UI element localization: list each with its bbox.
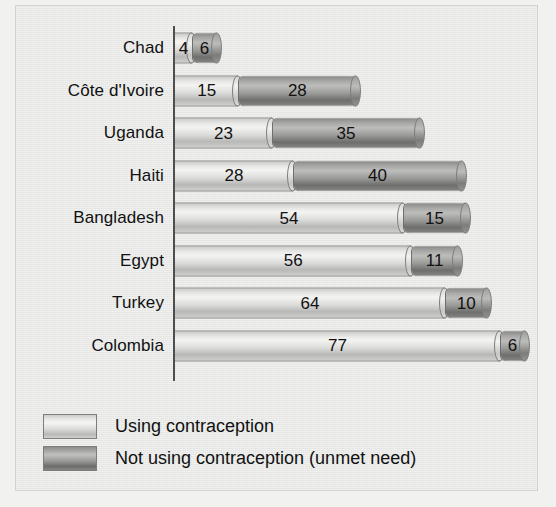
- chart-figure: Chad46Côte d'Ivoire1528Uganda2335Haiti28…: [15, 5, 538, 491]
- stacked-bar: 1528: [175, 75, 362, 106]
- bar-value-not-using-contraception: 6: [508, 336, 517, 356]
- bar-value-not-using-contraception: 28: [288, 81, 307, 101]
- bar-value-using-contraception: 56: [284, 251, 303, 271]
- bar-row: Bangladesh5415: [16, 197, 539, 239]
- category-label: Haiti: [16, 166, 164, 186]
- category-label: Chad: [16, 38, 164, 58]
- legend-item-using: Using contraception: [43, 412, 274, 440]
- category-label: Egypt: [16, 251, 164, 271]
- bar-value-not-using-contraception: 40: [368, 166, 387, 186]
- legend-swatch-using-contraception: [43, 414, 97, 439]
- stacked-bar: 2335: [175, 118, 426, 149]
- legend-label-not-using-contraception: Not using contraception (unmet need): [115, 448, 416, 469]
- category-label: Uganda: [16, 123, 164, 143]
- plot-area: Chad46Côte d'Ivoire1528Uganda2335Haiti28…: [16, 6, 539, 406]
- category-label: Côte d'Ivoire: [16, 81, 164, 101]
- bar-row: Côte d'Ivoire1528: [16, 70, 539, 112]
- bar-row: Colombia776: [16, 325, 539, 367]
- chart-legend: Using contraception Not using contracept…: [16, 404, 539, 490]
- stacked-bar: 2840: [175, 160, 468, 191]
- legend-swatch-not-using-contraception: [43, 446, 97, 471]
- bar-value-not-using-contraception: 6: [200, 38, 209, 58]
- stacked-bar: 776: [175, 330, 531, 361]
- bar-row: Uganda2335: [16, 112, 539, 154]
- bar-value-using-contraception: 54: [279, 208, 298, 228]
- bar-value-using-contraception: 28: [225, 166, 244, 186]
- bar-value-using-contraception: 15: [197, 81, 216, 101]
- bar-row: Chad46: [16, 27, 539, 69]
- bar-value-using-contraception: 64: [301, 293, 320, 313]
- bar-row: Egypt5611: [16, 240, 539, 282]
- legend-item-unmet: Not using contraception (unmet need): [43, 444, 416, 472]
- stacked-bar: 5611: [175, 245, 464, 276]
- bar-value-using-contraception: 77: [328, 336, 347, 356]
- bar-row: Turkey6410: [16, 282, 539, 324]
- bar-value-using-contraception: 4: [179, 38, 188, 58]
- legend-label-using-contraception: Using contraception: [115, 416, 274, 437]
- bar-value-not-using-contraception: 35: [336, 123, 355, 143]
- bar-value-using-contraception: 23: [214, 123, 233, 143]
- category-label: Colombia: [16, 336, 164, 356]
- category-label: Turkey: [16, 293, 164, 313]
- bar-row: Haiti2840: [16, 155, 539, 197]
- category-label: Bangladesh: [16, 208, 164, 228]
- bar-value-not-using-contraception: 10: [457, 293, 476, 313]
- stacked-bar: 6410: [175, 288, 493, 319]
- bar-value-not-using-contraception: 15: [425, 208, 444, 228]
- stacked-bar: 5415: [175, 203, 472, 234]
- bar-value-not-using-contraception: 11: [426, 251, 444, 271]
- stacked-bar: 46: [175, 33, 223, 64]
